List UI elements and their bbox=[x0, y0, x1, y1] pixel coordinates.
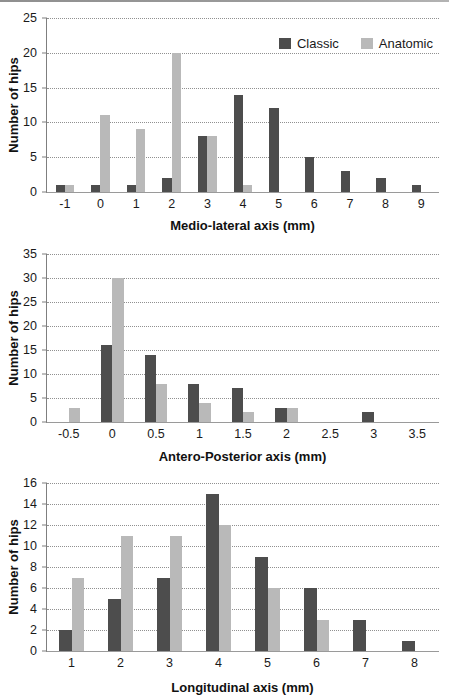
bar-group bbox=[341, 483, 390, 651]
bar-anatomic bbox=[207, 136, 216, 192]
bar-anatomic bbox=[172, 53, 181, 192]
bar-classic bbox=[234, 95, 243, 192]
bar-group bbox=[91, 254, 135, 422]
bar-anatomic bbox=[199, 403, 210, 422]
bar-group bbox=[178, 254, 222, 422]
x-tick-label: 9 bbox=[403, 197, 439, 211]
bar-classic bbox=[341, 171, 350, 192]
x-tick-label: -0.5 bbox=[47, 427, 91, 441]
y-tick-label: 2 bbox=[30, 624, 37, 637]
bar-classic bbox=[305, 157, 314, 192]
bar-classic bbox=[269, 108, 278, 192]
y-tick-label: 15 bbox=[23, 81, 37, 94]
x-tick-label: 2 bbox=[265, 427, 309, 441]
bar-classic bbox=[376, 178, 385, 192]
plot-area: 05101520253035-0.500.511.522.533.5 bbox=[46, 254, 439, 423]
bar-anatomic bbox=[72, 578, 85, 652]
x-tick-label: 6 bbox=[296, 197, 332, 211]
bar-anatomic bbox=[317, 620, 330, 652]
x-tick-label: 2 bbox=[96, 656, 145, 670]
bar-classic bbox=[255, 557, 268, 652]
x-axis-title: Antero-Posterior axis (mm) bbox=[46, 449, 439, 464]
x-tick-label: 4 bbox=[194, 656, 243, 670]
x-tick-label: 5 bbox=[261, 197, 297, 211]
x-tick-label: 3 bbox=[352, 427, 396, 441]
bar-classic bbox=[206, 494, 219, 652]
bar-anatomic bbox=[268, 588, 281, 651]
y-tick-label: 0 bbox=[30, 645, 37, 658]
bar-classic bbox=[412, 185, 421, 192]
bar-groups bbox=[47, 254, 439, 422]
legend-swatch-anatomic bbox=[361, 38, 373, 49]
y-tick-label: 25 bbox=[23, 296, 37, 309]
bar-group bbox=[396, 254, 440, 422]
x-tick-label: 1.5 bbox=[221, 427, 265, 441]
bar-anatomic bbox=[156, 384, 167, 422]
y-tick-label: 30 bbox=[23, 272, 37, 285]
x-tick-label: 4 bbox=[225, 197, 261, 211]
bar-classic bbox=[353, 620, 366, 652]
chart-antero-posterior-axis: Number of hips 05101520253035-0.500.511.… bbox=[0, 236, 449, 467]
bar-classic bbox=[362, 412, 373, 422]
bar-group bbox=[352, 254, 396, 422]
x-tick-label: 3.5 bbox=[396, 427, 440, 441]
y-tick-label: 6 bbox=[30, 582, 37, 595]
y-axis-title: Number of hips bbox=[6, 290, 21, 385]
x-tick-label: -1 bbox=[47, 197, 83, 211]
bar-group bbox=[118, 18, 154, 192]
x-tick-labels: 12345678 bbox=[47, 656, 439, 670]
bar-anatomic bbox=[243, 412, 254, 422]
y-tick-label: 5 bbox=[30, 392, 37, 405]
plot-area: 024681012141612345678 bbox=[46, 483, 439, 652]
legend-entry-classic: Classic bbox=[279, 36, 339, 51]
x-axis-title: Longitudinal axis (mm) bbox=[46, 680, 439, 695]
bar-classic bbox=[145, 355, 156, 422]
chart-longitudinal-axis: Number of hips 024681012141612345678 Lon… bbox=[0, 467, 449, 698]
bar-classic bbox=[59, 630, 72, 651]
bar-group bbox=[96, 483, 145, 651]
bar-classic bbox=[198, 136, 207, 192]
bar-anatomic bbox=[243, 185, 252, 192]
bar-group bbox=[190, 18, 226, 192]
y-tick-label: 4 bbox=[30, 603, 37, 616]
bar-group bbox=[47, 18, 83, 192]
bar-classic bbox=[162, 178, 171, 192]
bar-classic bbox=[275, 408, 286, 422]
x-tick-label: 0.5 bbox=[134, 427, 178, 441]
x-tick-label: 8 bbox=[368, 197, 404, 211]
legend-swatch-classic bbox=[279, 38, 291, 49]
bar-group bbox=[134, 254, 178, 422]
bar-classic bbox=[56, 185, 65, 192]
x-tick-label: 3 bbox=[145, 656, 194, 670]
y-axis-title: Number of hips bbox=[6, 519, 21, 614]
legend-label: Classic bbox=[297, 36, 339, 51]
y-tick-label: 10 bbox=[23, 116, 37, 129]
y-tick-label: 5 bbox=[30, 151, 37, 164]
x-tick-label: 1 bbox=[47, 656, 96, 670]
bar-anatomic bbox=[69, 408, 80, 422]
bar-group bbox=[292, 483, 341, 651]
bar-anatomic bbox=[287, 408, 298, 422]
y-tick-label: 35 bbox=[23, 248, 37, 261]
y-tick-label: 16 bbox=[23, 477, 37, 490]
x-tick-label: 1 bbox=[118, 197, 154, 211]
bar-classic bbox=[304, 588, 317, 651]
x-tick-label: 5 bbox=[243, 656, 292, 670]
bar-classic bbox=[402, 641, 415, 652]
chart-medio-lateral-axis: Number of hips 0510152025-10123456789Cla… bbox=[0, 2, 449, 236]
x-tick-labels: -0.500.511.522.533.5 bbox=[47, 427, 439, 441]
x-tick-label: 1 bbox=[178, 427, 222, 441]
bar-anatomic bbox=[136, 129, 145, 192]
bar-group bbox=[221, 254, 265, 422]
x-axis-title: Medio-lateral axis (mm) bbox=[46, 218, 439, 233]
bar-classic bbox=[157, 578, 170, 652]
legend-entry-anatomic: Anatomic bbox=[361, 36, 433, 51]
y-tick-label: 15 bbox=[23, 344, 37, 357]
bar-classic bbox=[127, 185, 136, 192]
bar-anatomic bbox=[170, 536, 183, 652]
bar-classic bbox=[91, 185, 100, 192]
bar-classic bbox=[188, 384, 199, 422]
bar-classic bbox=[108, 599, 121, 652]
y-tick-label: 10 bbox=[23, 368, 37, 381]
y-tick-label: 0 bbox=[30, 186, 37, 199]
